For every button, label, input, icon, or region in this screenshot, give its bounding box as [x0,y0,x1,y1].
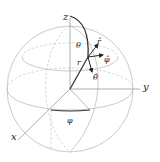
z-axis-label: z [62,11,69,22]
equator-front [7,89,133,110]
theta-angle-label: θ [76,41,81,50]
y-axis-label: y [142,81,149,92]
x-axis [18,89,70,140]
r-hat-label: r̂ [97,37,102,46]
radius-label: r [77,58,82,67]
projection-line-1 [70,89,90,110]
phi-hat-arrow [88,55,103,57]
theta-hat-label: θ̂ [93,73,98,82]
diagram-canvas: z y x θ φ r r̂ φ̂ θ̂ [0,0,160,162]
x-axis-label: x [11,131,17,142]
phi-angle-label: φ [67,116,73,125]
phi-hat-label: φ̂ [104,55,110,64]
spherical-coordinates-diagram: z y x θ φ r r̂ φ̂ θ̂ [0,0,160,162]
theta-arc [70,16,88,57]
meridian-back [46,26,70,152]
